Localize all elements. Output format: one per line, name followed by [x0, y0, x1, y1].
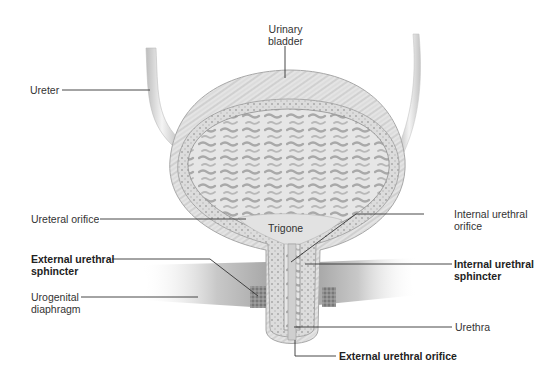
label-ureteral-orifice: Ureteral orifice: [31, 213, 99, 225]
urethra-channel: [288, 244, 296, 340]
label-external-urethral-sphincter: External urethral sphincter: [31, 253, 114, 277]
label-internal-urethral-sphincter: Internal urethral sphincter: [454, 258, 534, 282]
label-urethra: Urethra: [455, 321, 490, 333]
label-external-urethral-orifice: External urethral orifice: [339, 350, 457, 362]
external-sphincter-left: [250, 286, 266, 308]
external-sphincter-right: [322, 287, 336, 307]
label-ureter: Ureter: [30, 84, 59, 96]
label-urinary-bladder: Urinary bladder: [268, 23, 303, 47]
label-trigone: Trigone: [268, 222, 303, 234]
label-internal-urethral-orifice: Internal urethral orifice: [454, 208, 528, 232]
label-urogenital-diaphragm: Urogenital diaphragm: [31, 291, 81, 315]
left-ureter: [146, 48, 178, 145]
urogenital-diaphragm-left: [140, 262, 268, 308]
right-ureter: [398, 34, 420, 152]
